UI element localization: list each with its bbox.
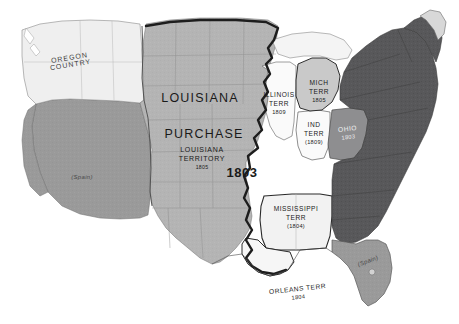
region-indiana-territory: [296, 110, 330, 160]
region-louisiana-purchase: [140, 18, 278, 264]
region-mississippi-territory: [260, 194, 332, 250]
map-graphic: [0, 0, 459, 324]
region-oregon-country: [22, 20, 144, 104]
region-spanish-florida: [332, 240, 392, 306]
region-spanish-southwest: [22, 99, 152, 219]
louisiana-purchase-map: OREGON COUNTRY LOUISIANA PURCHASE LOUISI…: [0, 0, 459, 324]
